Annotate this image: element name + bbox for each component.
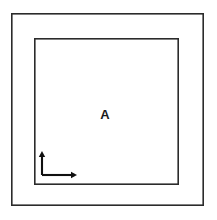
figure-canvas: A [0, 0, 217, 220]
horizontal-axis-arrowhead [71, 172, 77, 178]
vertical-axis-arrowhead [39, 151, 45, 157]
region-label-a: A [100, 108, 109, 121]
coordinate-axes [39, 151, 77, 178]
